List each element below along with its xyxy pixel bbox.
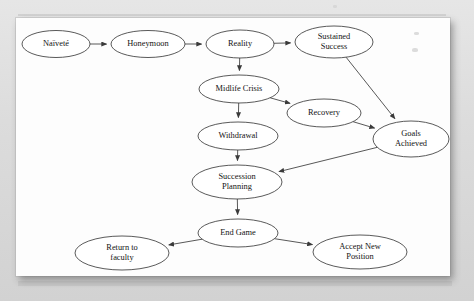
edge-end-game-to-accept-new-position: [275, 239, 313, 245]
node-withdrawal[interactable]: Withdrawal: [198, 122, 278, 150]
node-midlife-crisis[interactable]: Midlife Crisis: [199, 75, 279, 103]
node-label-naivete: Naïveté: [43, 39, 69, 48]
edge-recovery-to-goals-achieved: [353, 122, 375, 128]
node-label-succession-planning: Succession: [218, 172, 256, 181]
node-label-return-to-faculty: faculty: [110, 253, 134, 262]
node-end-game[interactable]: End Game: [198, 219, 278, 247]
edge-end-game-to-return-to-faculty: [169, 239, 202, 245]
node-reality[interactable]: Reality: [206, 30, 274, 58]
node-label-honeymoon: Honeymoon: [127, 39, 169, 48]
node-goals-achieved[interactable]: GoalsAchieved: [373, 121, 449, 157]
node-label-sustained-success: Sustained: [318, 32, 351, 41]
node-recovery[interactable]: Recovery: [287, 99, 361, 127]
edge-midlife-crisis-to-recovery: [270, 98, 290, 104]
node-sustained-success[interactable]: SustainedSuccess: [295, 26, 373, 58]
node-label-accept-new-position: Position: [346, 252, 374, 261]
node-label-goals-achieved: Goals: [401, 129, 421, 138]
node-return-to-faculty[interactable]: Return tofaculty: [75, 236, 169, 270]
node-succession-planning[interactable]: SuccessionPlanning: [192, 165, 282, 199]
node-label-reality: Reality: [228, 39, 253, 48]
nodes-layer: NaïvetéHoneymoonRealitySustainedSuccessM…: [22, 26, 449, 270]
node-label-recovery: Recovery: [308, 108, 341, 117]
node-label-succession-planning: Planning: [222, 182, 253, 191]
node-label-return-to-faculty: Return to: [106, 243, 137, 252]
node-label-sustained-success: Success: [321, 42, 348, 51]
career-lifecycle-flowchart: NaïvetéHoneymoonRealitySustainedSuccessM…: [0, 0, 474, 301]
node-label-withdrawal: Withdrawal: [218, 131, 258, 140]
node-naivete[interactable]: Naïveté: [22, 31, 90, 58]
node-accept-new-position[interactable]: Accept NewPosition: [313, 235, 407, 269]
node-label-accept-new-position: Accept New: [339, 242, 382, 251]
node-label-midlife-crisis: Midlife Crisis: [216, 84, 263, 93]
node-honeymoon[interactable]: Honeymoon: [111, 31, 185, 58]
node-label-end-game: End Game: [220, 228, 256, 237]
node-label-goals-achieved: Achieved: [395, 139, 428, 148]
edge-goals-achieved-to-succession-planning: [279, 147, 377, 171]
